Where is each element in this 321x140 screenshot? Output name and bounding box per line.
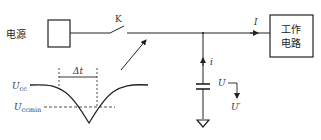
power-source-box [48,20,70,47]
current-main-label: I [253,17,258,27]
ucc-label: Ucc [12,81,27,93]
delta-t-label: Δt [72,66,83,76]
load-label-line2: 电路 [281,37,301,49]
switch-label: K [115,14,122,24]
voltage-dip-waveform: Ucc Uccmin Δt [12,66,148,123]
waveform-curve [30,85,148,123]
disturbance-arrow-icon [121,40,146,70]
voltage-after-label: U′ [231,102,241,112]
voltage-drop-arrow-icon [228,83,237,98]
ground-icon [197,120,209,127]
voltage-change-indicator: U U′ [218,78,241,112]
voltage-label: U [218,78,226,88]
switch-k: K [110,14,124,33]
branch-current-label: i [210,57,213,67]
power-source-label: 电源 [6,28,26,40]
power-source: 电源 [6,20,70,47]
switch-blade [110,26,124,33]
load-box [270,15,313,57]
load-label-line1: 工作 [281,24,301,35]
capacitor-branch: i [196,32,213,127]
circuit-diagram: 电源 K I 工作 电路 i U U′ Ucc [0,0,321,140]
load-circuit: 工作 电路 [270,15,313,57]
uccmin-label: Uccmin [14,102,41,114]
